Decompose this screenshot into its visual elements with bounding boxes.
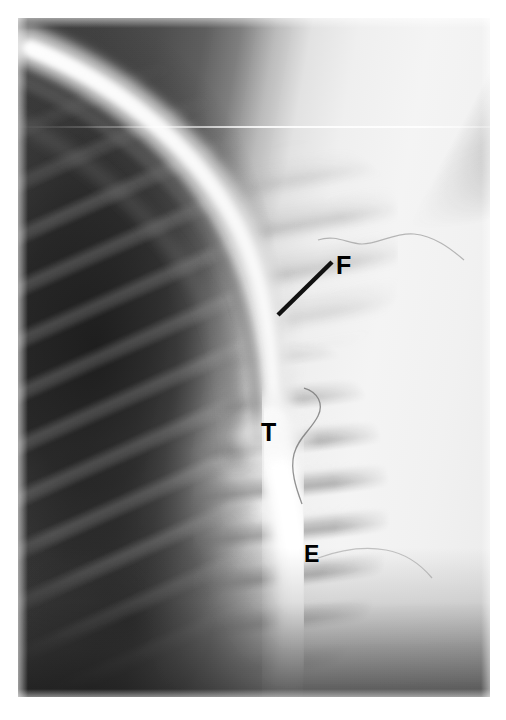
radiograph-figure: F T E [0,0,506,720]
xray-plate [18,18,490,697]
film-edge-vignette [18,18,490,697]
